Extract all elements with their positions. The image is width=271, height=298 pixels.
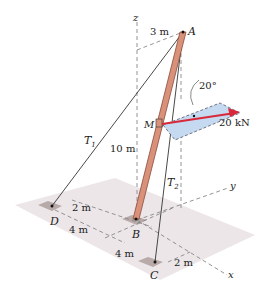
point-b-dot — [135, 218, 138, 221]
point-b-label: B — [131, 228, 140, 241]
angle-label: 20° — [199, 80, 217, 91]
point-c-label: C — [150, 269, 159, 282]
dim-d-4m: 4 m — [69, 224, 89, 235]
dim-10m: 10 m — [110, 143, 136, 154]
dim-3m: 3 m — [150, 26, 170, 37]
dim-c-2m: 2 m — [174, 257, 194, 268]
x-axis-label: x — [228, 269, 234, 280]
point-a-label: A — [187, 25, 196, 38]
dim-c-4m: 4 m — [115, 248, 135, 259]
point-d-label: D — [49, 215, 59, 228]
pole-cable-diagram: z y x A B C D M T1 T2 3 m 10 m 2 m 4 m 4… — [0, 0, 271, 298]
point-m-label: M — [143, 119, 155, 130]
force-label: 20 kN — [219, 117, 250, 128]
point-c-dot — [154, 261, 157, 264]
z-axis-label: z — [132, 12, 139, 23]
bracket-m — [156, 119, 162, 127]
dim-d-2m: 2 m — [72, 202, 92, 213]
t1-label: T1 — [84, 134, 96, 149]
y-axis-label: y — [229, 180, 236, 191]
t2-label: T2 — [167, 176, 179, 191]
point-d-dot — [51, 205, 54, 208]
angle-leader — [191, 80, 199, 105]
point-a-dot — [182, 31, 185, 34]
